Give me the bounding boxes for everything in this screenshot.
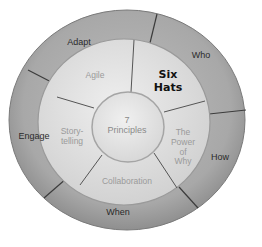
label-agile: Agile <box>86 71 105 81</box>
label-adapt: Adapt <box>67 37 91 47</box>
label-six-hats-line1: Six <box>154 69 182 82</box>
label-storytelling-line2: telling <box>61 137 84 147</box>
label-power-of-why-line4: Why <box>171 158 195 168</box>
label-collaboration: Collaboration <box>102 177 152 187</box>
label-center: 7 Principles <box>107 115 146 136</box>
label-center-line1: 7 <box>107 115 146 125</box>
label-engage: Engage <box>18 131 49 141</box>
label-who: Who <box>192 50 211 60</box>
label-when: When <box>106 207 130 217</box>
label-six-hats: Six Hats <box>154 69 182 94</box>
label-how: How <box>211 152 229 162</box>
label-power-of-why: The Power of Why <box>171 128 195 167</box>
label-storytelling: Story- telling <box>61 127 84 147</box>
label-center-line2: Principles <box>107 125 146 135</box>
label-six-hats-line2: Hats <box>154 82 182 95</box>
